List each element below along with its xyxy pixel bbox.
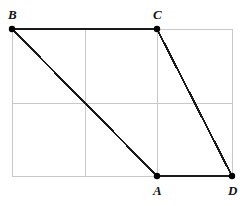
vertex-label-d: D [228, 184, 237, 197]
geometry-figure: ABCD [0, 0, 251, 206]
vertex-point-b [9, 26, 15, 32]
grid-lines [13, 30, 233, 177]
segment-ba [12, 29, 157, 176]
diagonal-segment-ba [12, 29, 157, 176]
vertex-point-a [154, 173, 160, 179]
geometry-canvas [0, 0, 251, 206]
vertex-label-b: B [8, 8, 17, 21]
parallelogram-outline [12, 29, 232, 176]
vertex-label-c: C [153, 8, 162, 21]
vertex-label-a: A [153, 184, 162, 197]
vertex-markers [9, 26, 235, 179]
segment-cd [157, 29, 232, 176]
vertex-point-d [229, 173, 235, 179]
vertex-point-c [154, 26, 160, 32]
